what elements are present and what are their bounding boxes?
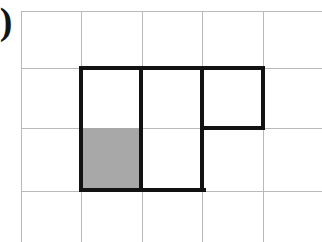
outline-segment-left bbox=[79, 66, 83, 192]
grid-line-horizontal bbox=[21, 128, 322, 129]
outline-segment-inner-second bbox=[200, 66, 204, 192]
figure-canvas: ) bbox=[0, 0, 322, 242]
shaded-cell bbox=[81, 128, 141, 190]
grid-line-vertical bbox=[21, 11, 22, 242]
problem-part-label: ) bbox=[0, 0, 16, 43]
outline-segment-right bbox=[261, 66, 265, 130]
outline-segment-top bbox=[79, 66, 265, 70]
outline-segment-middle-right bbox=[200, 126, 265, 130]
outline-segment-inner-first bbox=[139, 66, 143, 192]
grid-line-horizontal bbox=[21, 11, 322, 12]
